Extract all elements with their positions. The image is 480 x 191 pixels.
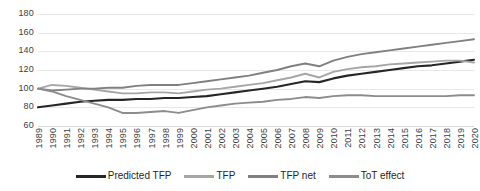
x-tick-label: 2018 [443, 128, 452, 148]
x-tick-label: 1992 [77, 128, 86, 148]
y-tick-label: 80 [0, 102, 34, 111]
x-tick-label: 1995 [119, 128, 128, 148]
gridline [38, 126, 474, 127]
x-tick-label: 2000 [190, 128, 199, 148]
legend-label: ToT effect [361, 171, 405, 181]
x-tick-label: 1997 [148, 128, 157, 148]
plot-area [38, 14, 474, 126]
y-tick-label: 120 [0, 65, 34, 74]
legend-swatch [76, 175, 106, 178]
x-tick-label: 2002 [218, 128, 227, 148]
x-tick-label: 2006 [274, 128, 283, 148]
x-tick-label: 1998 [162, 128, 171, 148]
legend-label: TFP [216, 171, 235, 181]
legend-item[interactable]: ToT effect [329, 171, 405, 181]
y-tick-label: 160 [0, 28, 34, 37]
legend-swatch [329, 175, 359, 178]
series-container [38, 14, 474, 126]
x-tick-label: 1993 [91, 128, 100, 148]
x-tick-label: 2015 [401, 128, 410, 148]
y-tick-label: 60 [0, 121, 34, 130]
x-tick-label: 2005 [260, 128, 269, 148]
x-tick-label: 2008 [302, 128, 311, 148]
x-tick-label: 1989 [35, 128, 44, 148]
legend-swatch [184, 175, 214, 178]
x-tick-label: 2013 [373, 128, 382, 148]
x-tick-label: 1999 [176, 128, 185, 148]
x-tick-label: 2014 [387, 128, 396, 148]
x-tick-label: 2020 [471, 128, 480, 148]
x-tick-label: 2011 [344, 128, 353, 148]
x-tick-label: 1990 [49, 128, 58, 148]
x-tick-label: 2004 [246, 128, 255, 148]
y-tick-label: 140 [0, 46, 34, 55]
legend-label: Predicted TFP [108, 171, 172, 181]
legend-item[interactable]: TFP [184, 171, 235, 181]
legend-label: TFP net [280, 171, 315, 181]
x-tick-label: 2019 [457, 128, 466, 148]
y-axis: 1801601401201008060 [0, 0, 34, 140]
x-tick-label: 1996 [133, 128, 142, 148]
line-chart: 1801601401201008060 19891990199119921993… [0, 0, 480, 191]
x-tick-label: 2016 [415, 128, 424, 148]
y-tick-label: 180 [0, 9, 34, 18]
legend-swatch [248, 175, 278, 178]
y-tick-label: 100 [0, 84, 34, 93]
series-line [38, 39, 474, 90]
x-tick-label: 2001 [204, 128, 213, 148]
x-tick-label: 1991 [63, 128, 72, 148]
x-tick-label: 1994 [105, 128, 114, 148]
x-tick-label: 2012 [358, 128, 367, 148]
legend-item[interactable]: Predicted TFP [76, 171, 172, 181]
x-tick-label: 2017 [429, 128, 438, 148]
legend-item[interactable]: TFP net [248, 171, 315, 181]
x-axis: 1989199019911992199319941995199619971998… [38, 128, 474, 164]
x-tick-label: 2010 [330, 128, 339, 148]
x-tick-label: 2009 [316, 128, 325, 148]
x-tick-label: 2007 [288, 128, 297, 148]
chart-legend: Predicted TFPTFPTFP netToT effect [0, 168, 480, 184]
x-tick-label: 2003 [232, 128, 241, 148]
